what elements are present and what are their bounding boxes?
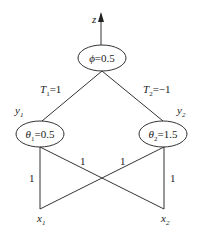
hidden-label-y2: y2 (176, 104, 186, 119)
hidden-label-y1: y1 (14, 104, 23, 119)
hidden-node-1-label: θ1=0.5 (26, 128, 55, 143)
input-label-x1: x1 (36, 212, 45, 227)
hidden-node-2-label: θ2=1.5 (149, 128, 178, 143)
weight-x2-y2: 1 (170, 172, 176, 184)
weight-t1: T1=1 (40, 83, 61, 98)
neural-network-diagram: z ϕ=0.5 T1=1 T2=−1 y1 y2 θ1=0.5 θ2=1.5 1… (0, 0, 200, 245)
weight-x1-y2: 1 (120, 155, 126, 167)
output-label: z (91, 13, 97, 25)
weight-t2: T2=−1 (143, 83, 171, 98)
edge-output-y2 (102, 71, 163, 121)
edge-output-y1 (42, 71, 102, 121)
arrowhead-icon (98, 12, 104, 22)
weight-x2-y1: 1 (80, 155, 86, 167)
input-label-x2: x2 (160, 212, 170, 227)
output-node-label: ϕ=0.5 (89, 52, 115, 64)
weight-x1-y1: 1 (29, 172, 35, 184)
